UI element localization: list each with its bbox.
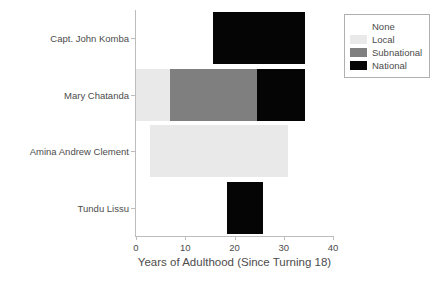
bar-segment-national (213, 12, 305, 64)
bar-segment-none (136, 125, 150, 177)
x-tick-mark (284, 236, 285, 240)
bar-segment-local (150, 125, 288, 177)
legend-item: Subnational (350, 46, 422, 59)
x-tick-label: 0 (133, 242, 138, 253)
bar-segment-local (136, 69, 170, 121)
y-tick-mark (131, 208, 135, 209)
y-tick-label: Tundu Lissu (78, 202, 129, 213)
legend-label: Subnational (372, 47, 422, 58)
x-axis-label: Years of Adulthood (Since Turning 18) (136, 256, 333, 268)
bar-row (136, 69, 333, 121)
legend-swatch-national (350, 61, 367, 70)
y-tick-mark (131, 95, 135, 96)
x-tick-label: 40 (328, 242, 339, 253)
x-tick-label: 10 (180, 242, 191, 253)
y-tick-mark (131, 151, 135, 152)
bar-segment-national (257, 69, 305, 121)
plot-area (136, 10, 333, 236)
y-tick-label: Amina Andrew Clement (30, 146, 129, 157)
x-tick-label: 30 (278, 242, 289, 253)
bar-segment-subnational (170, 69, 257, 121)
legend-label: None (372, 21, 395, 32)
x-tick-label: 20 (229, 242, 240, 253)
x-tick-mark (235, 236, 236, 240)
bar-row (136, 125, 333, 177)
y-tick-label: Mary Chatanda (64, 89, 129, 100)
y-axis-spine (135, 10, 136, 236)
bar-segment-national (227, 182, 262, 234)
bar-row (136, 12, 333, 64)
chart-legend: NoneLocalSubnationalNational (344, 14, 430, 78)
legend-swatch-subnational (350, 48, 367, 57)
bar-segment-none (136, 12, 213, 64)
x-tick-mark (333, 236, 334, 240)
y-tick-label: Capt. John Komba (50, 33, 129, 44)
y-tick-mark (131, 38, 135, 39)
legend-label: National (372, 60, 407, 71)
legend-item: National (350, 59, 422, 72)
legend-swatch-none (350, 22, 367, 31)
bar-chart-figure: Years of Adulthood (Since Turning 18) No… (0, 0, 434, 286)
bar-segment-none (136, 182, 227, 234)
legend-item: None (350, 20, 422, 33)
x-tick-mark (185, 236, 186, 240)
legend-swatch-local (350, 35, 367, 44)
bar-row (136, 182, 333, 234)
legend-item: Local (350, 33, 422, 46)
legend-label: Local (372, 34, 395, 45)
x-tick-mark (136, 236, 137, 240)
